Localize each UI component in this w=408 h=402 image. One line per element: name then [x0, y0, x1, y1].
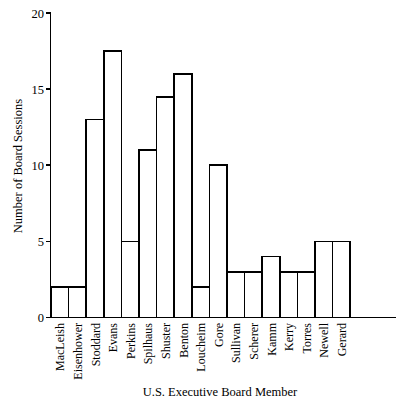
y-tick-label: 10 — [32, 159, 45, 173]
bar — [121, 241, 139, 317]
bar — [51, 287, 69, 317]
x-category-label: Gerard — [335, 323, 349, 356]
bar — [174, 74, 192, 318]
x-category-label: Newell — [317, 322, 331, 357]
x-axis-title: U.S. Executive Board Member — [143, 385, 298, 399]
y-tick-label: 5 — [38, 235, 44, 249]
y-tick-label: 0 — [38, 311, 44, 325]
x-category-label: Gore — [212, 323, 226, 347]
x-category-label: Scherer — [247, 323, 261, 360]
bar — [297, 272, 315, 318]
x-category-label: Sullivan — [229, 323, 243, 363]
x-category-label: Benton — [177, 323, 191, 358]
bar — [192, 287, 210, 317]
x-category-label: MacLeish — [53, 323, 67, 371]
bar-chart-figure: 05101520 MacLeishEisenhowerStoddardEvans… — [0, 0, 408, 402]
bar — [139, 150, 157, 317]
x-category-label: Spilhaus — [141, 323, 155, 365]
bar — [333, 241, 351, 317]
x-category-label: Kamm — [265, 322, 279, 355]
x-category-label: Torres — [300, 323, 314, 354]
bar — [227, 272, 245, 318]
bar — [280, 272, 298, 318]
bar — [209, 165, 227, 317]
chart-canvas: 05101520 MacLeishEisenhowerStoddardEvans… — [0, 0, 408, 402]
bar — [104, 51, 122, 317]
x-category-label: Eisenhower — [71, 323, 85, 380]
bar — [262, 257, 280, 318]
bar — [157, 97, 175, 318]
x-category-label: Evans — [106, 323, 120, 353]
y-axis-title: Number of Board Sessions — [11, 99, 25, 233]
bar — [69, 287, 87, 317]
y-tick-label: 15 — [32, 83, 45, 97]
bar — [245, 272, 263, 318]
y-tick-label: 20 — [32, 7, 45, 21]
x-category-label: Stoddard — [89, 323, 103, 366]
bar — [315, 241, 333, 317]
x-category-label: Perkins — [124, 323, 138, 359]
x-category-label: Kerry — [282, 323, 296, 351]
x-category-label: Shuster — [159, 323, 173, 359]
x-category-label: Loucheim — [194, 322, 208, 371]
bar — [86, 120, 104, 318]
